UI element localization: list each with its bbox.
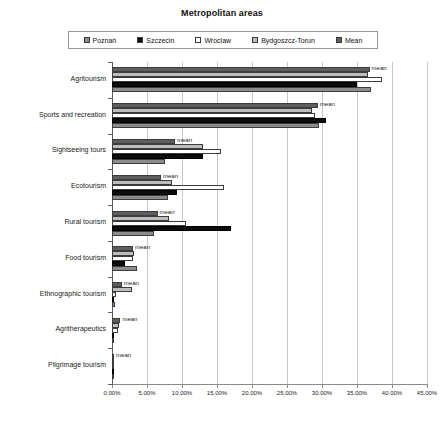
x-axis-tick [217,384,218,388]
x-axis-tick-label: 40.00% [382,390,402,396]
legend-item-wroclaw[interactable]: Wroclaw [195,37,231,44]
bar-pozna--ethnographic-tourism [112,302,115,307]
legend-swatch-icon [252,37,258,43]
legend-item-label: Szczecin [146,37,174,44]
category-label: Ethnographic tourism [0,290,106,297]
x-axis-tick-label: 45.00% [417,390,437,396]
x-axis-tick [287,384,288,388]
bar-pozna--sightseeing-tours [112,159,165,164]
chart-legend: PoznańSzczecinWroclawBydgoszcz-TorunMean [68,31,378,49]
x-axis-tick [357,384,358,388]
chart-container: Metropolitan areas PoznańSzczecinWroclaw… [0,0,444,422]
category-label: Ecotourism [0,182,106,189]
mean-annotation: mean [160,209,175,215]
category-label: Agritourism [0,75,106,82]
y-axis-tick [108,169,113,170]
x-axis-tick [182,384,183,388]
x-axis-tick-label: 15.00% [207,390,227,396]
bar-pozna--sports-and-recreation [112,123,319,128]
category-label: Food tourism [0,254,106,261]
mean-annotation: mean [177,137,192,143]
legend-item-label: Bydgoszcz-Torun [261,37,315,44]
x-axis-tick [427,384,428,388]
y-axis-tick [108,384,113,385]
y-axis-tick [108,348,113,349]
x-axis-line [112,384,427,385]
x-axis-tick-label: 30.00% [312,390,332,396]
bar-pozna--agritherapeutics [112,338,114,343]
bar-pozna--food-tourism [112,266,137,271]
legend-item-label: Mean [345,37,363,44]
x-axis-tick [252,384,253,388]
mean-annotation: mean [320,101,335,107]
y-axis-tick [108,277,113,278]
legend-item-poznan[interactable]: Poznań [84,37,117,44]
mean-annotation: mean [124,280,139,286]
mean-annotation: mean [116,352,131,358]
x-axis-tick-label: 25.00% [277,390,297,396]
y-axis-tick [108,134,113,135]
mean-annotation: mean [163,173,178,179]
x-axis-tick-label: 35.00% [347,390,367,396]
x-axis-tick [322,384,323,388]
x-axis-tick-label: 5.00% [138,390,155,396]
legend-item-bydgoszcz[interactable]: Bydgoszcz-Torun [252,37,315,44]
gridline [357,62,358,384]
y-axis-tick [108,241,113,242]
legend-item-mean[interactable]: Mean [336,37,363,44]
category-label: Sightseeing tours [0,146,106,153]
gridline [392,62,393,384]
y-axis-tick [108,98,113,99]
bar-pozna--ecotourism [112,195,168,200]
plot-area: meanmeanmeanmeanmeanmeanmeanmeanmean [112,62,427,384]
x-axis-tick-label: 10.00% [172,390,192,396]
y-axis-tick [108,205,113,206]
y-axis-tick [108,312,113,313]
y-axis-tick [108,62,113,63]
category-label: Sports and recreation [0,111,106,118]
x-axis-tick [392,384,393,388]
gridline [427,62,428,384]
legend-swatch-icon [336,37,342,43]
legend-swatch-icon [137,37,143,43]
bar-pozna--pilgrimage-tourism [112,374,114,379]
category-label: Rural tourism [0,218,106,225]
gridline [322,62,323,384]
mean-annotation: mean [122,316,137,322]
mean-annotation: mean [135,244,150,250]
x-axis-tick [147,384,148,388]
legend-item-label: Poznań [93,37,117,44]
legend-swatch-icon [84,37,90,43]
category-label: Pilgrimage tourism [0,361,106,368]
legend-item-label: Wroclaw [204,37,231,44]
mean-annotation: mean [372,65,387,71]
x-axis-tick-label: 20.00% [242,390,262,396]
legend-item-szczecin[interactable]: Szczecin [137,37,174,44]
bar-pozna--agritourism [112,87,371,92]
bar-pozna--rural-tourism [112,231,154,236]
legend-swatch-icon [195,37,201,43]
x-axis-tick-label: 0.00% [103,390,120,396]
category-label: Agritherapeutics [0,325,106,332]
chart-title: Metropolitan areas [0,8,444,18]
